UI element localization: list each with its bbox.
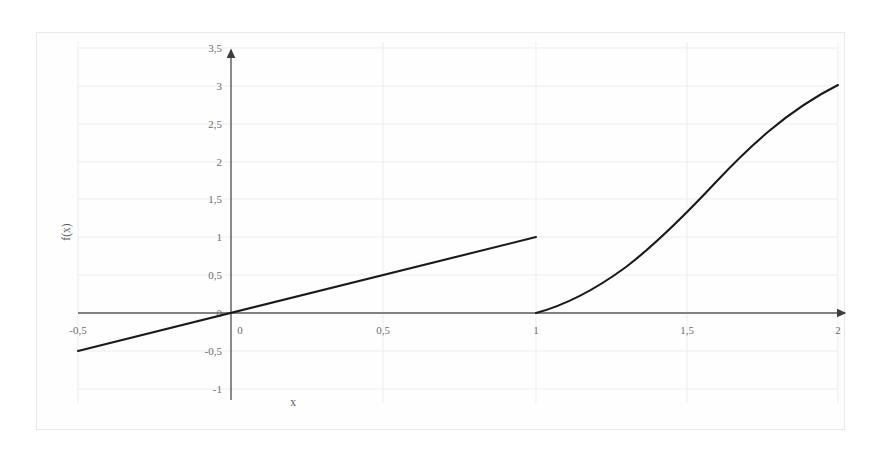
x-tick-label: 0,5 — [376, 324, 390, 336]
axes — [78, 50, 845, 400]
x-axis-tick-labels: -0,5 0 0,5 1 1,5 2 — [69, 324, 840, 336]
y-axis-title: f(x) — [60, 223, 73, 240]
x-axis-title: x — [290, 396, 296, 408]
grid-lines — [78, 42, 838, 403]
x-tick-label: 2 — [835, 324, 841, 336]
y-tick-label: 1 — [217, 231, 223, 243]
figure-canvas: 3,5 3 2,5 2 1,5 1 0,5 0 -0,5 -1 -0,5 0 0… — [0, 0, 884, 460]
y-tick-label: 2,5 — [208, 118, 222, 130]
x-tick-label: -0,5 — [69, 324, 87, 336]
x-tick-label: 1 — [533, 324, 539, 336]
x-tick-label: 1,5 — [680, 324, 694, 336]
x-tick-label-origin: 0 — [237, 324, 243, 336]
function-graph: 3,5 3 2,5 2 1,5 1 0,5 0 -0,5 -1 -0,5 0 0… — [0, 0, 884, 460]
y-axis-tick-labels: 3,5 3 2,5 2 1,5 1 0,5 0 -0,5 -1 — [205, 42, 223, 395]
y-tick-label: 3,5 — [208, 42, 222, 54]
y-tick-label: 3 — [217, 80, 223, 92]
y-tick-label: 1,5 — [208, 193, 222, 205]
y-tick-label: 2 — [217, 156, 223, 168]
series-branch-1-linear — [78, 237, 536, 351]
y-tick-label: 0,5 — [208, 269, 222, 281]
y-tick-label: -0,5 — [205, 345, 223, 357]
y-tick-label: -1 — [213, 383, 222, 395]
